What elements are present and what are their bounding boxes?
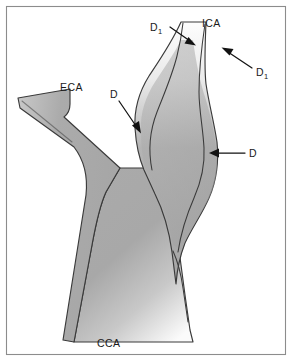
label-eca: ECA [60, 81, 83, 93]
leader-line-d1-upper-right [228, 52, 252, 68]
label-d1-upper-left: D1 [150, 21, 163, 36]
label-ica: ICA [202, 17, 221, 29]
carotid-artery-diagram: D1 D1 D D ICA ECA CCA [0, 0, 293, 362]
label-d-right: D [249, 147, 257, 159]
leader-line-d-left [119, 101, 136, 126]
figure-container: D1 D1 D D ICA ECA CCA [0, 0, 293, 362]
label-d-left: D [110, 88, 118, 100]
annotation-d1-upper-right: D1 [222, 48, 269, 82]
label-cca: CCA [97, 337, 120, 349]
label-d1-upper-right: D1 [256, 66, 269, 81]
